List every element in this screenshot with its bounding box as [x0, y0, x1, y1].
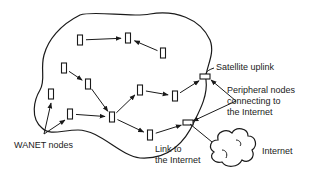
wanet-node-A: [78, 35, 83, 45]
wanet-node-I: [138, 85, 143, 95]
peripheral-node-S: [200, 74, 210, 79]
wanet-boundary: [34, 13, 211, 158]
edge-E-H: [92, 89, 108, 111]
edge-K-L: [156, 125, 182, 133]
satellite-uplink-label: Satellite uplink: [216, 62, 275, 72]
edge-J-S: [180, 81, 199, 93]
edge-H-K: [117, 120, 143, 132]
wanet-node-F: [49, 89, 54, 99]
internet-link-line: [190, 124, 212, 142]
edge-A-B: [86, 38, 121, 39]
edge-D-E: [69, 71, 82, 80]
internet-cloud-icon: [211, 129, 256, 167]
edge-C-B: [134, 41, 157, 51]
wanet-node-B: [126, 33, 131, 43]
edge-I-J: [146, 91, 168, 95]
peripheral-label-1: Peripheral nodes: [227, 85, 296, 95]
nodes: [49, 33, 211, 140]
edge-H-I: [116, 95, 135, 113]
wanet-node-K: [148, 130, 153, 140]
wanet-nodes-label: WANET nodes: [14, 140, 74, 150]
wanet-node-E: [86, 79, 91, 89]
link-label-1: Link to: [155, 144, 182, 154]
peripheral-node-L: [183, 120, 193, 125]
edge-G-H: [76, 114, 105, 116]
cloud-detail: [222, 150, 227, 158]
wanet-node-J: [173, 91, 178, 101]
wanet-node-G: [68, 109, 73, 119]
cloud-detail: [236, 140, 241, 146]
wanet-node-C: [161, 48, 166, 58]
link-label-2: the Internet: [155, 155, 201, 165]
wanet-node-H: [110, 112, 115, 122]
internet-label: Internet: [262, 146, 293, 156]
wanet-diagram: WANET nodes Satellite uplink Peripheral …: [0, 0, 309, 181]
wanet-nodes-pointer: [44, 103, 65, 134]
peripheral-label-3: the Internet: [227, 107, 273, 117]
wanet-node-D: [62, 63, 67, 73]
peripheral-label-2: connecting to: [227, 96, 281, 106]
